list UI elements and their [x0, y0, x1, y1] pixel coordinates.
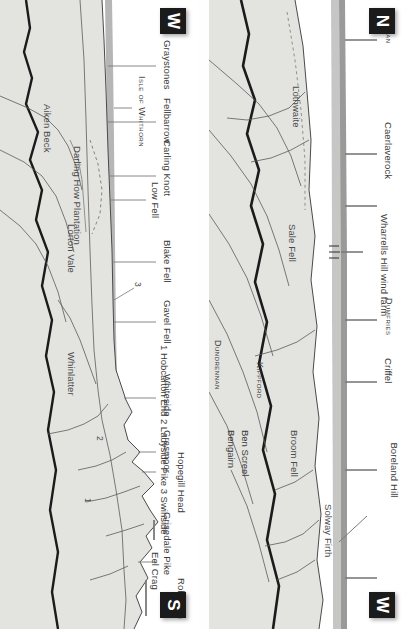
label-blake-fell: Blake Fell: [162, 240, 172, 283]
marker-1: 1: [83, 498, 92, 503]
label-graystones: Graystones: [162, 40, 172, 90]
label-caerlaverock: Caerlaverock: [383, 122, 393, 179]
panel-solway-scotland: Annan Caerlaverock Wharrells Hill wind f…: [209, 0, 407, 629]
label-lorton-vale: Lorton Vale: [66, 224, 76, 273]
label-aiken-beck: Aiken Beck: [42, 104, 52, 153]
label-isle-of-whithorn: Isle of Whithorn: [137, 76, 146, 147]
label-boreland-hill: Boreland Hill: [389, 432, 399, 508]
label-dundrennan: Dundrennan: [213, 340, 223, 390]
panel-lake-district: Graystones Fellbarrow Carling Knott Low …: [0, 0, 198, 629]
compass-marker-w-bottom: W: [369, 592, 395, 618]
compass-marker-n: N: [369, 8, 395, 34]
label-broom-fell: Broom Fell: [289, 430, 299, 477]
label-carling-knott: Carling Knott: [162, 140, 172, 196]
label-whinlatter: Whinlatter: [66, 352, 76, 396]
label-ben-screel: Ben Screel: [240, 430, 251, 476]
label-lothwaite: Lothwaite: [291, 86, 301, 128]
label-gavel-fell: Gavel Fell: [162, 300, 172, 344]
label-sale-fell: Sale Fell: [287, 224, 297, 262]
label-kippford: Kippford: [255, 362, 265, 399]
key-caption: 1 Hobcarton End 2 Ladyside Pike 3 Swinsi…: [170, 345, 194, 585]
marker-2: 2: [95, 436, 104, 441]
label-low-fell: Low Fell: [150, 182, 160, 218]
compass-marker-w-top: W: [160, 8, 186, 34]
label-bengairn: Bengairn: [226, 430, 237, 468]
label-eel-crag: Eel Crag: [150, 552, 160, 590]
label-dumfries: Dumfries: [384, 298, 393, 336]
compass-marker-s: S: [160, 592, 186, 618]
marker-3: 3: [133, 282, 142, 287]
panorama-diagram: A PANORAMA: [0, 0, 407, 629]
skyline-artwork-bottom: [209, 0, 407, 629]
label-criffel: Criffel: [383, 358, 393, 383]
label-solway-firth: Solway Firth: [323, 504, 333, 557]
label-wharrells-hill-wind-farm: Wharrells Hill wind farm: [379, 214, 389, 294]
label-darling-how-plantation: Darling How Plantation: [72, 146, 82, 236]
label-fellbarrow: Fellbarrow: [162, 98, 172, 143]
